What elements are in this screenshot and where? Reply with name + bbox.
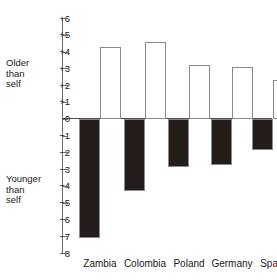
bar-older-than-self [100, 47, 121, 119]
bar-younger-than-self [124, 119, 145, 191]
bar-older-than-self [145, 42, 166, 119]
bar-older-than-self [273, 80, 277, 119]
bar-younger-than-self [168, 119, 189, 167]
bar-older-than-self [232, 67, 253, 119]
x-axis-category-label: Spain [233, 258, 277, 270]
age-perception-bar-chart: Older than self Younger than self +6+5+4… [0, 0, 277, 280]
bar-older-than-self [189, 65, 210, 119]
plot-area [0, 0, 277, 280]
bar-younger-than-self [211, 119, 232, 165]
bar-younger-than-self [252, 119, 273, 150]
bar-younger-than-self [79, 119, 100, 238]
